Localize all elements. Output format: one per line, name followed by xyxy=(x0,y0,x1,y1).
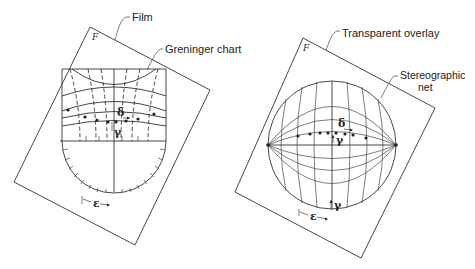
net-delta-label: δ xyxy=(338,117,345,130)
overlay-label: Transparent overlay xyxy=(342,27,440,39)
net-epsilon-indicator: ε xyxy=(299,209,328,223)
stereographic-net: δ γ γ xyxy=(266,81,398,212)
net-label-line1: Stereographic xyxy=(400,69,465,81)
greninger-chart: δ γ xyxy=(60,69,166,193)
left-panel: F Film Greninger chart xyxy=(14,11,241,245)
overlay-frame-label: F xyxy=(302,43,310,53)
greninger-leader xyxy=(147,49,163,70)
net-label-line2: net xyxy=(418,81,433,93)
film-frame xyxy=(14,27,210,245)
svg-text:ε: ε xyxy=(93,197,100,210)
film-frame-label: F xyxy=(91,32,99,42)
gamma-label: γ xyxy=(114,126,122,139)
svg-text:ε: ε xyxy=(310,210,317,223)
diagram: F Film Greninger chart xyxy=(0,0,475,269)
net-gamma-bottom-label: γ xyxy=(334,199,342,212)
film-leader xyxy=(115,17,130,40)
net-gamma-top-label: γ xyxy=(336,134,344,147)
delta-label: δ xyxy=(117,106,124,119)
data-points xyxy=(66,108,155,123)
right-panel: F Transparent overlay Stereographic net xyxy=(235,27,465,258)
greninger-label: Greninger chart xyxy=(165,43,241,55)
overlay-leader xyxy=(326,31,340,50)
epsilon-indicator: ε xyxy=(82,196,110,210)
film-label: Film xyxy=(132,11,153,23)
